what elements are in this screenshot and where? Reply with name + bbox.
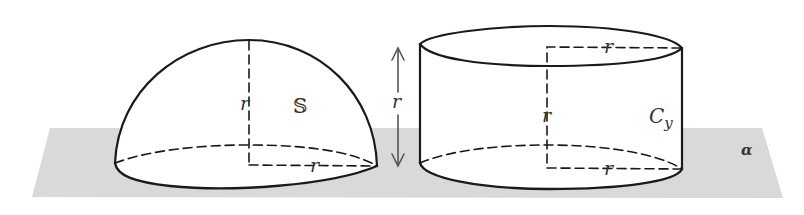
hemisphere-label: 𝕊 xyxy=(293,94,307,118)
diagram-figure: r r 𝕊 r r r r Cy α xyxy=(0,0,804,215)
hemisphere xyxy=(115,40,377,188)
height-arrow-label: r xyxy=(392,90,403,112)
plane-alpha-label: α xyxy=(741,141,753,159)
